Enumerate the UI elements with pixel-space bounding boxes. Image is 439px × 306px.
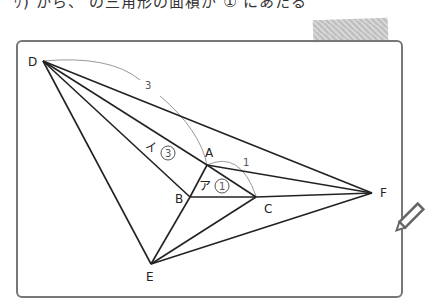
label-c: C xyxy=(264,202,272,216)
label-e: E xyxy=(146,270,154,284)
segments xyxy=(43,61,372,264)
region-a-ratio: 1 xyxy=(219,181,225,192)
region-i-ratio: 3 xyxy=(165,148,171,159)
label-f: F xyxy=(380,186,387,200)
label-b: B xyxy=(175,192,183,206)
region-a-kana: ア xyxy=(199,179,211,193)
region-i-kana: イ xyxy=(145,141,157,155)
arc-label-da: 3 xyxy=(145,80,151,91)
geometry-diagram: D A B C E F 3 1 イ 3 ア 1 xyxy=(0,0,439,306)
pencil-icon xyxy=(394,204,424,234)
arc-label-ac: 1 xyxy=(243,157,249,168)
label-d: D xyxy=(28,55,37,69)
label-a: A xyxy=(205,146,214,160)
